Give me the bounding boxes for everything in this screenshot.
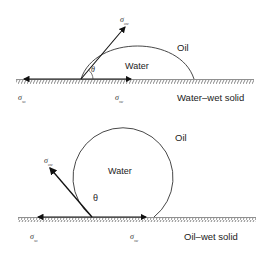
bottom-sigma-so-label: σso: [30, 232, 38, 243]
top-theta-label: θ: [91, 65, 95, 74]
top-diagram: [16, 27, 254, 84]
top-solid-surface: [16, 80, 254, 84]
bottom-theta-label: θ: [93, 193, 98, 203]
bottom-sigma-sw-label: σsw: [130, 232, 138, 243]
bottom-diagram: [18, 128, 256, 222]
top-sigma-so-label: σso: [18, 93, 26, 104]
top-sigma-ow-label: σow: [120, 15, 129, 26]
top-oil-label: Oil: [177, 42, 189, 53]
top-water-label: Water: [125, 61, 149, 71]
contact-angle-diagram: [0, 0, 271, 259]
top-sigma-sw-label: σsw: [115, 93, 123, 104]
bottom-oil-label: Oil: [175, 132, 187, 143]
bottom-arrow-ow: [50, 168, 92, 217]
top-arrow-ow: [81, 27, 125, 79]
bottom-sigma-ow-label: σow: [44, 156, 53, 167]
bottom-solid-surface: [18, 218, 256, 222]
bottom-water-label: Water: [108, 166, 132, 176]
bottom-surface-label: Oil–wet solid: [184, 231, 238, 242]
top-surface-label: Water–wet solid: [177, 92, 244, 103]
